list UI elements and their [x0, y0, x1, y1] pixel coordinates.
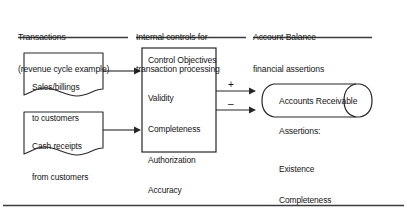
diagram-canvas: Transactions (revenue cycle example) Int…	[0, 0, 407, 215]
document-label-sales-billings-line1: Sales/billings	[32, 82, 79, 92]
column-header-transactions-line1: Transactions	[18, 32, 109, 43]
assertions-item: Existence	[279, 164, 381, 174]
column-header-account-balance-line2: financial assertions	[253, 64, 324, 75]
document-label-cash-receipts-line1: Cash receipts	[32, 141, 88, 151]
control-objectives-list: Validity Completeness Authorization Accu…	[148, 73, 200, 215]
document-label-cash-receipts-line2: from customers	[32, 172, 88, 182]
column-header-internal-controls-line1: Internal controls for	[136, 32, 220, 43]
control-objectives-item: Authorization	[148, 155, 200, 165]
arrow-controls-positive	[216, 88, 256, 95]
accounts-receivable-label: Accounts Receivable	[279, 96, 357, 106]
column-header-account-balance-line1: Account Balance	[253, 32, 324, 43]
connector-sign-positive: +	[228, 80, 234, 90]
arrow-cash-to-controls	[103, 127, 141, 134]
control-objectives-item: Completeness	[148, 124, 200, 134]
arrow-controls-negative	[216, 107, 256, 114]
assertions-list: Existence Completeness Valuation Rights …	[279, 144, 381, 215]
control-objectives-heading: Control Objectives	[148, 55, 216, 66]
assertions-heading: Assertions:	[279, 126, 320, 137]
assertions-item: Completeness	[279, 195, 381, 205]
column-header-account-balance: Account Balance financial assertions	[253, 11, 324, 96]
connector-sign-negative: –	[228, 99, 233, 109]
control-objectives-item: Accuracy	[148, 185, 200, 195]
document-label-cash-receipts: Cash receipts from customers	[32, 120, 88, 203]
control-objectives-item: Validity	[148, 93, 200, 103]
